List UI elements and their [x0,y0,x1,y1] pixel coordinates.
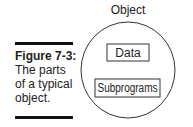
data-box-label: Data [115,46,141,60]
object-diagram: Object Data Subprograms [0,0,193,127]
object-circle [81,22,175,118]
subprograms-box-label: Subprograms [98,81,158,95]
object-title: Object [111,3,146,17]
